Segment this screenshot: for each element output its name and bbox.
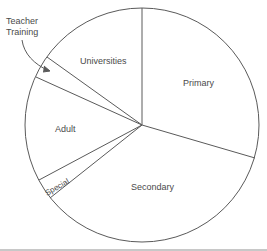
boundary-primary-secondary (142, 125, 255, 158)
boundary-teacher-universities (47, 57, 142, 125)
boundary-adult-teacher (36, 77, 142, 125)
slice-label-adult: Adult (55, 124, 76, 134)
callout-label-teacher-line1: Teacher (6, 16, 38, 26)
slice-label-special: Special (44, 177, 71, 198)
callout-label-teacher-line2: Training (6, 27, 38, 37)
callout-arrowhead (43, 66, 50, 72)
slice-label-secondary: Secondary (131, 182, 175, 192)
slice-label-primary: Primary (183, 78, 214, 88)
slice-label-universities: Universities (80, 56, 127, 66)
pie-chart: Primary Secondary Adult Universities Spe… (0, 0, 267, 251)
